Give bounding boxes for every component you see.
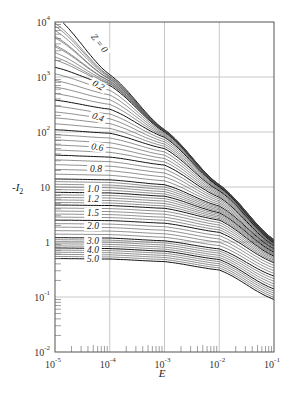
- x-tick-label: 10-2: [209, 356, 225, 370]
- curve-label-text: 1.2: [87, 194, 99, 204]
- curve-label-text: 2.0: [87, 221, 99, 231]
- curve-label: Z = 0: [87, 29, 112, 57]
- curve-label: 1.2: [84, 194, 102, 204]
- y-axis-title: -I2: [12, 181, 23, 196]
- y-tick-label: 102: [37, 124, 51, 138]
- x-tick-label: 10-4: [100, 356, 116, 370]
- x-axis-title: E: [158, 367, 166, 379]
- curve-label-text: 1.5: [87, 208, 99, 218]
- y-tick-labels: 10410310210110-110-2: [34, 14, 50, 358]
- curve-label: 5.0: [84, 254, 102, 264]
- curve-label-text: 0.6: [91, 141, 104, 153]
- chart: 10410310210110-110-2 10-510-410-310-210-…: [0, 0, 297, 396]
- curve-label-text: 5.0: [87, 254, 99, 264]
- x-tick-label: 10-5: [45, 356, 61, 370]
- curve-label: 1.0: [84, 184, 102, 194]
- curve-label: 1.5: [84, 208, 102, 218]
- curve-label: 2.0: [84, 221, 102, 231]
- y-tick-label: 103: [37, 69, 51, 83]
- curve-label: 0.8: [87, 164, 105, 174]
- y-tick-label: 104: [37, 14, 51, 28]
- y-tick-label: 10-1: [34, 289, 50, 303]
- curve-label-text: 1.0: [87, 184, 99, 194]
- x-tick-label: 10-1: [264, 356, 280, 370]
- y-tick-label: 10: [40, 182, 50, 193]
- curve-label-text: 0.8: [90, 164, 102, 174]
- y-axis-title-sub: 2: [19, 187, 23, 196]
- y-tick-label: 1: [45, 237, 50, 248]
- y-tick-label: 10-2: [34, 344, 50, 358]
